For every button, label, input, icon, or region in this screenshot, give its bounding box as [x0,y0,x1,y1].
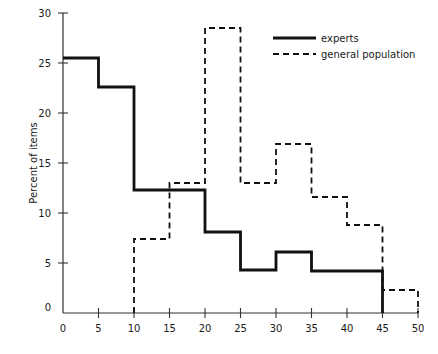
legend-label-experts: experts [321,33,359,44]
x-tick-label: 50 [412,323,425,334]
y-axis-label: Percent of items [28,122,39,203]
series-experts [63,58,383,313]
y-tick-label: 0 [45,302,51,313]
x-tick-label: 30 [270,323,283,334]
x-tick-label: 10 [128,323,141,334]
y-tick-label: 5 [45,258,51,269]
x-tick-label: 25 [234,323,247,334]
x-tick-label: 0 [60,323,66,334]
legend: experts general population [273,33,415,60]
x-tick-label: 35 [305,323,318,334]
y-tick-label: 15 [38,158,51,169]
y-tick-label: 10 [38,208,51,219]
y-tick-label: 25 [38,58,51,69]
x-tick-label: 45 [376,323,389,334]
x-tick-label: 5 [95,323,101,334]
y-tick-label: 20 [38,108,51,119]
y-tick-label: 30 [38,8,51,19]
legend-label-general-population: general population [321,49,415,60]
histogram-chart: 05101520253005101520253035404550 Percent… [0,0,438,354]
x-tick-label: 15 [163,323,176,334]
x-tick-label: 20 [199,323,212,334]
series-layer [63,28,418,313]
x-tick-label: 40 [341,323,354,334]
